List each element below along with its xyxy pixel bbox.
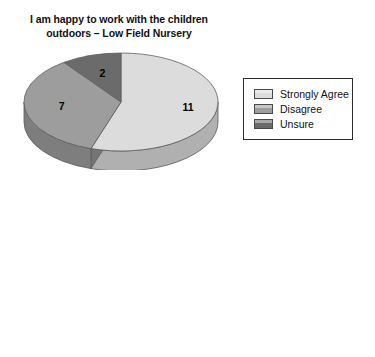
legend-swatch-icon	[254, 119, 273, 129]
pie-slice-value: 11	[183, 101, 194, 113]
chart-panel-spring-garden-nursery: I am happy to work with the children out…	[0, 180, 375, 357]
legend-item-label: Unsure	[280, 118, 314, 130]
pie-slice-value: 2	[99, 67, 105, 79]
pie-svg: 1172	[0, 45, 240, 170]
legend-swatch-icon	[254, 89, 273, 99]
chart-title-line-1: I am happy to work with the children	[8, 12, 230, 26]
chart-legend-low-field-nursery: Strongly AgreeDisagreeUnsure	[243, 78, 353, 140]
legend-item-label: Strongly Agree	[280, 88, 349, 100]
pie-chart-low-field-nursery: 1172	[0, 45, 240, 170]
legend-item[interactable]: Strongly Agree	[254, 87, 343, 101]
chart-title-low-field-nursery: I am happy to work with the children out…	[8, 12, 230, 40]
chart-title-line-2: outdoors – Low Field Nursery	[8, 26, 230, 40]
legend-item-label: Disagree	[280, 103, 322, 115]
legend-item[interactable]: Disagree	[254, 102, 343, 116]
legend-swatch-icon	[254, 104, 273, 114]
pie-slice-value: 7	[59, 100, 65, 112]
legend-item[interactable]: Unsure	[254, 117, 343, 131]
chart-panel-low-field-nursery: I am happy to work with the children out…	[0, 0, 375, 180]
